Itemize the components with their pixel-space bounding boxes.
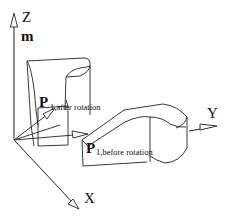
vector-after	[14, 108, 55, 140]
p1-after-sub: 1,after rotation	[50, 102, 101, 112]
p1-before-main: P	[86, 140, 95, 156]
frame-label: m	[21, 28, 34, 44]
label-p1-after: P 1,after rotation	[39, 94, 101, 112]
label-p1-before: P 1,before rotation	[86, 140, 153, 157]
x-axis-label: X	[84, 190, 95, 206]
x-axis	[14, 140, 79, 209]
p1-before-sub: 1,before rotation	[96, 147, 153, 157]
vector-before	[14, 125, 88, 140]
y-axis-label: Y	[207, 105, 218, 121]
p1-after-main: P	[39, 94, 48, 110]
z-axis	[11, 13, 18, 140]
y-axis	[189, 124, 217, 131]
rotation-diagram: Z m X Y	[0, 0, 232, 219]
z-axis-label: Z	[22, 9, 31, 25]
